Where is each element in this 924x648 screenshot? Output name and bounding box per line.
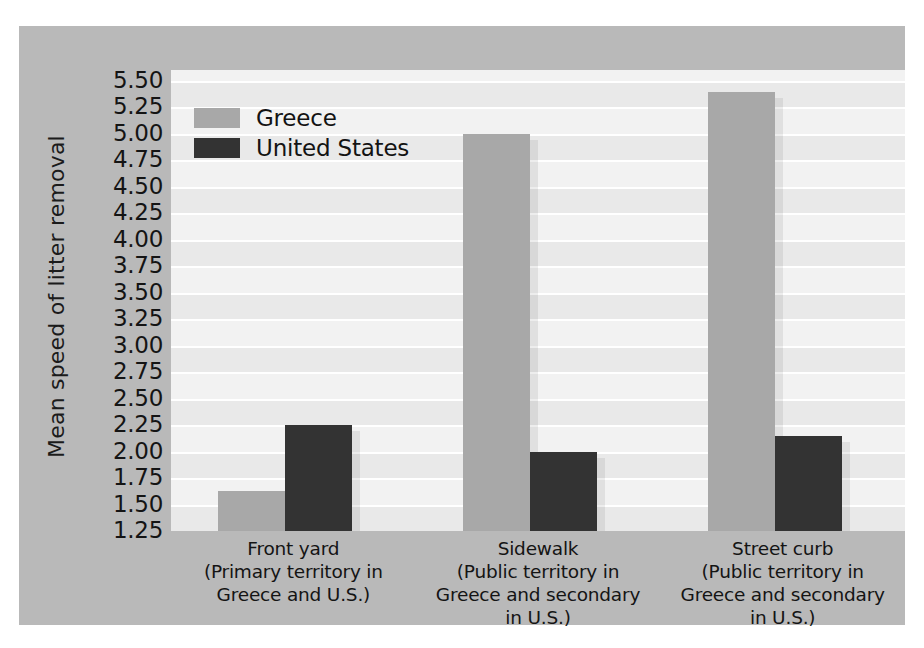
gridline-band [171,399,905,425]
y-axis-tick-label: 4.25 [75,201,163,224]
y-axis-tick-labels: 5.505.255.004.754.504.254.003.753.503.25… [61,26,163,625]
gridline [171,372,905,374]
gridline-band [171,240,905,266]
legend-label: Greece [256,105,337,131]
y-axis-tick-label: 2.75 [75,360,163,383]
legend-item[interactable]: Greece [194,103,409,133]
y-axis-tick-label: 4.00 [75,228,163,251]
gridline [171,399,905,401]
gridline [171,240,905,242]
legend-swatch-icon [194,108,240,128]
y-axis-tick-label: 5.25 [75,95,163,118]
y-axis-tick-label: 2.00 [75,440,163,463]
gridline [171,319,905,321]
y-axis-tick-label: 5.50 [75,69,163,92]
gridline-band [171,346,905,372]
x-axis-label-line: (Public territory in [662,560,903,583]
y-axis-tick-label: 3.50 [75,281,163,304]
bar-united-states-1[interactable] [530,452,597,531]
bar-united-states-0[interactable] [285,425,352,531]
x-axis-label-line: Greece and U.S.) [173,583,414,606]
y-axis-tick-label: 2.25 [75,413,163,436]
x-axis-label-line: Front yard [173,537,414,560]
legend-item[interactable]: United States [194,133,409,163]
x-axis-label-line: Sidewalk [418,537,659,560]
legend: GreeceUnited States [194,103,409,163]
gridline [171,213,905,215]
x-axis-category-label-1: Sidewalk(Public territory inGreece and s… [416,534,661,626]
x-axis-label-line: in U.S.) [418,606,659,629]
y-axis-tick-label: 3.75 [75,254,163,277]
x-axis-category-labels: Front yard(Primary territory inGreece an… [171,534,905,626]
gridline [171,425,905,427]
bar-greece-2[interactable] [708,92,775,531]
chart-panel: Mean speed of litter removal 5.505.255.0… [19,26,905,625]
y-axis-tick-label: 3.00 [75,334,163,357]
x-axis-label-line: (Public territory in [418,560,659,583]
bar-united-states-2[interactable] [775,436,842,531]
gridline [171,187,905,189]
y-axis-tick-label: 1.25 [75,519,163,542]
legend-swatch-icon [194,138,240,158]
x-axis-label-line: Greece and secondary [418,583,659,606]
gridline-band [171,293,905,319]
x-axis-category-label-0: Front yard(Primary territory inGreece an… [171,534,416,626]
plot-area: GreeceUnited States [171,70,905,531]
y-axis-tick-label: 4.75 [75,148,163,171]
x-axis-category-label-2: Street curb(Public territory inGreece an… [660,534,905,626]
gridline [171,266,905,268]
gridline [171,293,905,295]
legend-label: United States [256,135,409,161]
y-axis-tick-label: 4.50 [75,175,163,198]
bar-greece-0[interactable] [218,491,285,531]
x-axis-label-line: in U.S.) [662,606,903,629]
x-axis-label-line: (Primary territory in [173,560,414,583]
y-axis-tick-label: 2.50 [75,387,163,410]
x-axis-label-line: Greece and secondary [662,583,903,606]
gridline [171,81,905,83]
y-axis-tick-label: 3.25 [75,307,163,330]
y-axis-tick-label: 1.75 [75,466,163,489]
chart-screenshot: Mean speed of litter removal 5.505.255.0… [0,0,924,648]
y-axis-tick-label: 5.00 [75,122,163,145]
gridline [171,346,905,348]
bar-greece-1[interactable] [463,134,530,531]
y-axis-tick-label: 1.50 [75,493,163,516]
gridline-band [171,187,905,213]
x-axis-label-line: Street curb [662,537,903,560]
